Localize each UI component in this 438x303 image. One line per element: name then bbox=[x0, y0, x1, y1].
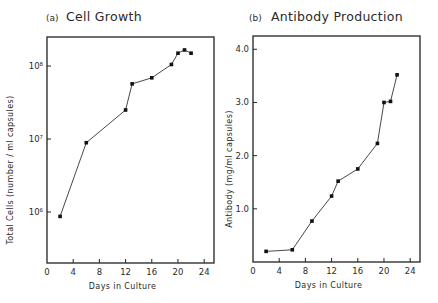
y-tick-label: 3.0 bbox=[235, 97, 249, 107]
data-point bbox=[176, 51, 180, 55]
panel-b-y-axis-label: Antibody (mg/ml capsules) bbox=[225, 110, 234, 228]
x-tick-label: 24 bbox=[199, 267, 210, 277]
panel-a-y-axis-label: Total Cells (number / ml capsules) bbox=[6, 95, 15, 245]
panel-b-series-line bbox=[266, 75, 397, 252]
y-tick-label: 10⁸ bbox=[29, 61, 44, 71]
x-tick-label: 0 bbox=[44, 267, 49, 277]
data-point bbox=[150, 76, 154, 80]
panel-a-data-markers bbox=[58, 48, 193, 218]
y-tick-label: 10⁶ bbox=[29, 207, 44, 217]
x-tick-label: 4 bbox=[276, 266, 281, 276]
y-tick-label: 2.0 bbox=[235, 151, 249, 161]
data-point bbox=[170, 63, 174, 67]
panel-a-tag: (a) bbox=[46, 13, 59, 23]
data-point bbox=[124, 108, 128, 112]
figure: (a) Cell Growth 04812162024 10⁶10⁷10⁸ Da… bbox=[0, 0, 438, 303]
panel-b-plot-frame bbox=[253, 36, 420, 262]
panel-a-title: Cell Growth bbox=[66, 9, 142, 24]
x-tick-label: 20 bbox=[173, 267, 184, 277]
y-tick-label: 4.0 bbox=[235, 44, 249, 54]
y-tick-label: 1.0 bbox=[235, 204, 249, 214]
data-point bbox=[382, 101, 386, 105]
data-point bbox=[183, 48, 187, 52]
panel-a-series-line bbox=[60, 50, 191, 216]
x-tick-label: 4 bbox=[70, 267, 75, 277]
data-point bbox=[290, 248, 294, 252]
data-point bbox=[189, 51, 193, 55]
x-tick-label: 24 bbox=[405, 266, 416, 276]
x-tick-label: 20 bbox=[379, 266, 390, 276]
figure-svg: (a) Cell Growth 04812162024 10⁶10⁷10⁸ Da… bbox=[0, 0, 438, 303]
panel-b-data-markers bbox=[264, 73, 399, 253]
panel-b-y-axis: 1.02.03.04.0 bbox=[235, 44, 257, 214]
panel-b-x-axis-label: Days in Culture bbox=[295, 281, 362, 290]
panel-b-x-axis: 04812162024 bbox=[250, 258, 415, 276]
panel-a-y-axis: 10⁶10⁷10⁸ bbox=[29, 61, 51, 217]
x-tick-label: 0 bbox=[250, 266, 255, 276]
x-tick-label: 12 bbox=[120, 267, 131, 277]
data-point bbox=[330, 194, 334, 198]
data-point bbox=[336, 179, 340, 183]
data-point bbox=[395, 73, 399, 77]
data-point bbox=[84, 141, 88, 145]
panel-a-x-axis-label: Days in Culture bbox=[89, 282, 156, 291]
x-tick-label: 8 bbox=[303, 266, 308, 276]
y-tick-label: 10⁷ bbox=[29, 134, 44, 144]
panel-cell-growth: (a) Cell Growth 04812162024 10⁶10⁷10⁸ Da… bbox=[6, 9, 214, 291]
data-point bbox=[310, 219, 314, 223]
x-tick-label: 16 bbox=[146, 267, 157, 277]
data-point bbox=[58, 215, 62, 219]
data-point bbox=[264, 250, 268, 254]
data-point bbox=[376, 142, 380, 146]
panel-a-x-axis: 04812162024 bbox=[44, 259, 209, 277]
x-tick-label: 12 bbox=[326, 266, 337, 276]
panel-b-tag: (b) bbox=[249, 13, 262, 23]
panel-antibody-production: (b) Antibody Production 04812162024 1.02… bbox=[225, 9, 420, 290]
panel-a-plot-frame bbox=[47, 37, 214, 263]
x-tick-label: 8 bbox=[97, 267, 102, 277]
data-point bbox=[356, 167, 360, 171]
data-point bbox=[389, 100, 393, 104]
x-tick-label: 16 bbox=[352, 266, 363, 276]
panel-b-title: Antibody Production bbox=[271, 9, 403, 24]
data-point bbox=[130, 82, 134, 86]
